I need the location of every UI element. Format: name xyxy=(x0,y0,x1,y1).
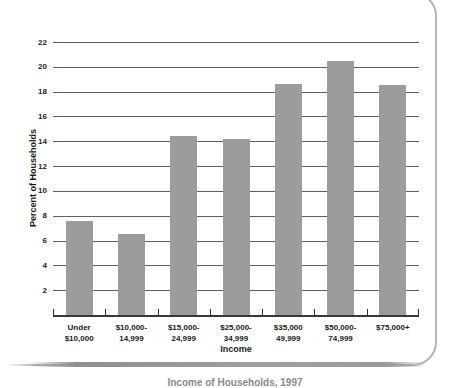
x-tick-label-line: 34,999 xyxy=(206,334,266,345)
x-axis-tick-5 xyxy=(314,309,315,317)
y-tick-label-6: 6 xyxy=(21,236,47,246)
bar-1 xyxy=(118,234,145,315)
y-tick-label-22: 22 xyxy=(21,38,47,48)
x-tick-label-0: Under$10,000 xyxy=(49,323,109,344)
bar-4 xyxy=(275,84,302,315)
y-tick-label-4: 4 xyxy=(21,261,47,271)
x-tick-label-line: $25,000- xyxy=(206,323,266,334)
x-tick-label-5: $50,000-74,999 xyxy=(310,323,370,344)
x-axis-tick-2 xyxy=(158,309,159,317)
x-tick-label-line: 14,999 xyxy=(101,334,161,345)
y-tick-label-18: 18 xyxy=(21,87,47,97)
card-bottom-shadow xyxy=(28,362,426,367)
x-tick-label-6: $75,000+ xyxy=(363,323,423,334)
x-axis-tick-4 xyxy=(262,309,263,317)
x-axis-tick-3 xyxy=(210,309,211,317)
x-axis-tick-6 xyxy=(367,309,368,317)
bar-2 xyxy=(170,136,197,315)
x-tick-label-2: $15,000-24,999 xyxy=(154,323,214,344)
clipped-caption: Income of Households, 1997 xyxy=(0,377,451,388)
gridline-22 xyxy=(53,42,419,43)
bar-5 xyxy=(327,61,354,315)
x-tick-label-line: $35,000 xyxy=(258,323,318,334)
bar-0 xyxy=(66,221,93,315)
y-tick-label-10: 10 xyxy=(21,186,47,196)
gridline-18 xyxy=(53,92,419,93)
x-tick-label-4: $35,00049,999 xyxy=(258,323,318,344)
gridline-20 xyxy=(53,67,419,68)
bar-3 xyxy=(223,139,250,315)
x-axis-title: Income xyxy=(53,344,419,354)
plot-area: 246810121416182022Under$10,000$10,000-14… xyxy=(53,42,419,317)
gridline-16 xyxy=(53,116,419,117)
bar-6 xyxy=(379,85,406,315)
x-tick-label-line: 49,999 xyxy=(258,334,318,345)
x-tick-label-line: 24,999 xyxy=(154,334,214,345)
x-tick-label-3: $25,000-34,999 xyxy=(206,323,266,344)
x-tick-label-line: 74,999 xyxy=(310,334,370,345)
x-tick-label-line: $10,000 xyxy=(49,334,109,345)
y-tick-label-12: 12 xyxy=(21,162,47,172)
y-tick-label-8: 8 xyxy=(21,211,47,221)
x-tick-label-line: $75,000+ xyxy=(363,323,423,334)
x-axis-tick-0 xyxy=(53,309,54,317)
y-tick-label-20: 20 xyxy=(21,62,47,72)
x-tick-label-line: $10,000- xyxy=(101,323,161,334)
x-axis-tick-1 xyxy=(105,309,106,317)
y-tick-label-2: 2 xyxy=(21,286,47,296)
x-axis-tick-7 xyxy=(418,309,419,317)
x-tick-label-line: $50,000- xyxy=(310,323,370,334)
x-tick-label-line: $15,000- xyxy=(154,323,214,334)
x-tick-label-line: Under xyxy=(49,323,109,334)
y-tick-label-14: 14 xyxy=(21,137,47,147)
y-tick-label-16: 16 xyxy=(21,112,47,122)
x-tick-label-1: $10,000-14,999 xyxy=(101,323,161,344)
